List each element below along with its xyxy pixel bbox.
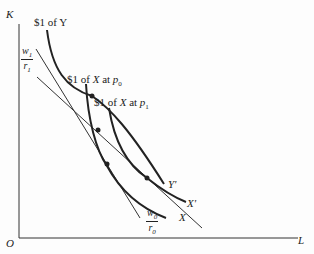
k-axis-label: K (6, 9, 13, 20)
isoquant-x-p1-end-label: X' (187, 198, 196, 209)
w1-r1-label: w1 r1 (21, 46, 33, 74)
label-mid: at (99, 73, 112, 85)
label-prefix: $1 of (94, 96, 120, 108)
isoquant-y-end-label: Y' (168, 179, 176, 190)
frac-num: w (22, 45, 29, 56)
isoquant-x-p1-label: $1 of X at p1 (94, 97, 149, 111)
tangency-point-x-p0 (105, 162, 110, 167)
origin-label: O (6, 238, 14, 249)
isoquant-x-p0-end-label: X (179, 212, 186, 223)
tangency-point-x-p1 (145, 176, 150, 181)
isoquant-y-label: $1 of Y (34, 17, 67, 28)
w0-r0-label: w0 r0 (146, 208, 158, 236)
label-mid: at (126, 96, 139, 108)
label-sub: 1 (145, 103, 149, 111)
l-axis-label: L (298, 235, 304, 246)
isoquant-y-text: $1 of Y (34, 16, 67, 28)
frac-num-sub: 0 (154, 213, 158, 221)
isoquant-diagram: K L O $1 of Y $1 of X at p0 $1 of X at p… (0, 0, 314, 254)
tangency-point-y-w0 (96, 128, 101, 133)
frac-den-sub: 0 (152, 228, 156, 236)
label-prefix: $1 of (67, 73, 93, 85)
frac-num: w (147, 207, 154, 218)
frac-num-sub: 1 (29, 51, 33, 59)
isoquant-x-p0-label: $1 of X at p0 (67, 74, 122, 88)
label-sub: 0 (118, 80, 122, 88)
frac-den-sub: 1 (27, 66, 31, 74)
